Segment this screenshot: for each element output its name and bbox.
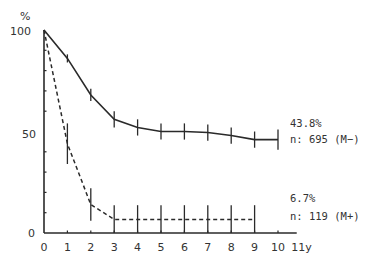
m-minus-percent-label: 43.8% xyxy=(290,117,322,129)
m-plus-n-label: n: 119 (M+) xyxy=(290,210,360,222)
y-tick-50: 50 xyxy=(22,128,36,141)
x-tick-label: 2 xyxy=(87,241,94,254)
x-tick-label: 10 xyxy=(271,241,285,254)
m-plus-percent-label: 6.7% xyxy=(290,192,316,204)
x-tick-labels: 01234567891011y xyxy=(41,241,313,254)
x-tick-label: 8 xyxy=(228,241,235,254)
series-line-m xyxy=(44,30,278,140)
x-tick-label: 5 xyxy=(158,241,165,254)
x-tick-label: 0 xyxy=(41,241,48,254)
x-tick-label: 9 xyxy=(251,241,258,254)
x-tick-label: 3 xyxy=(111,241,118,254)
y-unit-label: % xyxy=(20,10,30,23)
x-tick-label: 6 xyxy=(181,241,188,254)
m-minus-n-label: n: 695 (M−) xyxy=(290,133,360,145)
x-tick-label: 4 xyxy=(134,241,141,254)
x-tick-label: 11y xyxy=(291,241,312,254)
y-tick-100: 100 xyxy=(10,25,31,38)
x-tick-label: 1 xyxy=(64,241,71,254)
series-layer xyxy=(44,30,278,233)
survival-chart: % 100 50 0 43.8% n: 695 (M−) 6.7% n: 119… xyxy=(0,0,366,266)
x-tick-label: 7 xyxy=(204,241,211,254)
series-line-m xyxy=(44,30,255,219)
y-tick-0: 0 xyxy=(28,227,35,240)
